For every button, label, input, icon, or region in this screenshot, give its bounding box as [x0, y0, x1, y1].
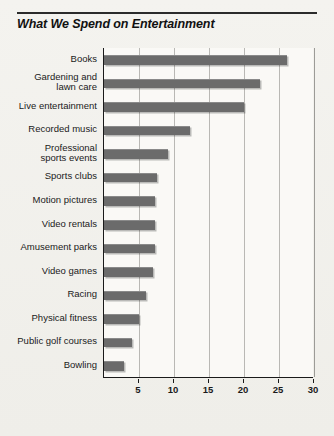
- category-label-line: Amusement parks: [20, 242, 97, 253]
- x-tick-label-20: 20: [238, 384, 249, 395]
- bar-row: [104, 244, 313, 254]
- x-tick-5: [138, 379, 139, 383]
- category-label-bowling: Bowling: [64, 360, 97, 371]
- bar-books: [104, 55, 287, 65]
- bar-series: [104, 48, 313, 377]
- bar-row: [104, 55, 313, 65]
- category-label-amusement-parks: Amusement parks: [20, 242, 97, 253]
- bar-amusement-parks: [104, 244, 155, 254]
- category-label-line: Books: [71, 54, 97, 65]
- bar-row: [104, 291, 313, 301]
- bar-sports-clubs: [104, 173, 157, 183]
- category-label-line: Live entertainment: [19, 101, 97, 112]
- page-title: What We Spend on Entertainment: [17, 17, 317, 31]
- bar-row: [104, 79, 313, 89]
- x-tick-label-15: 15: [203, 384, 214, 395]
- x-tick-10: [173, 379, 174, 383]
- category-axis-labels: BooksGardening andlawn careLive entertai…: [0, 48, 100, 378]
- bar-bowling: [104, 361, 124, 371]
- category-label-motion-pictures: Motion pictures: [33, 195, 97, 206]
- bar-physical-fitness: [104, 314, 139, 324]
- bar-row: [104, 361, 313, 371]
- category-label-video-rentals: Video rentals: [42, 219, 97, 230]
- category-label-live-entertainment: Live entertainment: [19, 101, 97, 112]
- category-label-line: lawn care: [34, 82, 97, 93]
- x-tick-label-30: 30: [308, 384, 319, 395]
- x-tick-label-25: 25: [273, 384, 284, 395]
- category-label-video-games: Video games: [42, 266, 97, 277]
- bar-chart: BooksGardening andlawn careLive entertai…: [0, 40, 334, 385]
- x-tick-20: [243, 379, 244, 383]
- category-label-line: Recorded music: [28, 124, 97, 135]
- bar-professional-sports-events: [104, 149, 168, 159]
- bar-recorded-music: [104, 126, 190, 136]
- gridline-30: [314, 48, 315, 377]
- bar-video-games: [104, 267, 153, 277]
- category-label-racing: Racing: [67, 289, 97, 300]
- bar-video-rentals: [104, 220, 155, 230]
- category-label-line: Physical fitness: [32, 313, 97, 324]
- bar-row: [104, 196, 313, 206]
- bar-live-entertainment: [104, 102, 244, 112]
- title-rule: [17, 12, 317, 14]
- category-label-gardening-and-lawn-care: Gardening andlawn care: [34, 72, 97, 93]
- bar-row: [104, 126, 313, 136]
- category-label-line: Motion pictures: [33, 195, 97, 206]
- bar-row: [104, 314, 313, 324]
- x-tick-label-10: 10: [168, 384, 179, 395]
- plot-area: [103, 48, 313, 378]
- bar-motion-pictures: [104, 196, 155, 206]
- bar-racing: [104, 291, 146, 301]
- bar-row: [104, 267, 313, 277]
- category-label-line: Video rentals: [42, 219, 97, 230]
- bar-row: [104, 338, 313, 348]
- x-tick-30: [313, 379, 314, 383]
- category-label-line: Bowling: [64, 360, 97, 371]
- x-tick-15: [208, 379, 209, 383]
- bar-public-golf-courses: [104, 338, 132, 348]
- chart-page: What We Spend on Entertainment BooksGard…: [0, 0, 334, 436]
- bar-gardening-and-lawn-care: [104, 79, 260, 89]
- category-label-public-golf-courses: Public golf courses: [17, 336, 97, 347]
- category-label-line: Racing: [67, 289, 97, 300]
- x-tick-label-5: 5: [135, 384, 140, 395]
- category-label-line: sports events: [41, 153, 98, 164]
- category-label-line: Video games: [42, 266, 97, 277]
- x-tick-25: [278, 379, 279, 383]
- category-label-professional-sports-events: Professionalsports events: [41, 143, 98, 164]
- bar-row: [104, 173, 313, 183]
- bar-row: [104, 220, 313, 230]
- category-label-sports-clubs: Sports clubs: [45, 171, 97, 182]
- category-label-books: Books: [71, 54, 97, 65]
- category-label-physical-fitness: Physical fitness: [32, 313, 97, 324]
- bar-row: [104, 102, 313, 112]
- category-label-line: Sports clubs: [45, 171, 97, 182]
- category-label-line: Public golf courses: [17, 336, 97, 347]
- category-label-recorded-music: Recorded music: [28, 124, 97, 135]
- bar-row: [104, 149, 313, 159]
